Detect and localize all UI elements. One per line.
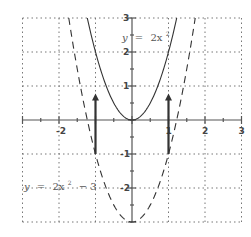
y-tick-label: 2 (123, 47, 129, 57)
x-tick-label: 2 (202, 126, 208, 136)
x-tick-label: 3 (239, 126, 245, 136)
parabola-shift-graph: -2123321-1-2 y = 2x 2 y = 2x 2 − 3 (0, 0, 251, 237)
label-bottom-curve: y = 2x 2 − 3 (23, 176, 97, 192)
label-top-curve: y = 2x 2 (121, 30, 170, 43)
y-tick-label: 1 (123, 81, 129, 91)
arrow-head-icon (92, 94, 99, 101)
arrow-head-icon (165, 94, 172, 101)
y-tick-label: 3 (123, 13, 129, 23)
y-tick-label: -2 (120, 183, 130, 193)
x-tick-label: -2 (56, 126, 66, 136)
y-tick-label: -1 (120, 149, 130, 159)
